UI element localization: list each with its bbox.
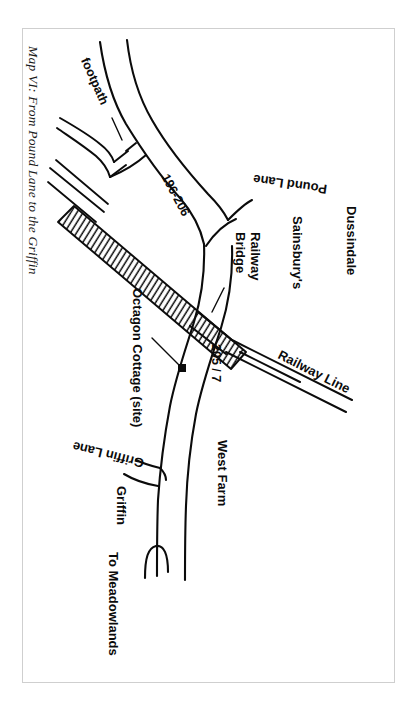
label-railway-bridge-line1: Railway — [247, 232, 262, 280]
label-house-numbers-205-7: 205 / 7 — [209, 344, 222, 382]
label-west-farm: West Farm — [216, 440, 229, 506]
map-title: Map VI: From Pound Lane to the Griffin — [26, 46, 40, 275]
label-sainsburys: Sainsbury's — [291, 216, 304, 289]
road-pound-lane — [100, 40, 228, 244]
label-octagon-cottage: Octagon Cottage (site) — [131, 288, 144, 427]
label-dussindale: Dussindale — [345, 206, 358, 275]
label-railway-bridge: Railway Bridge — [233, 232, 262, 280]
footpath — [57, 118, 128, 177]
label-to-meadowlands: To Meadowlands — [107, 552, 120, 656]
leader-line-octagon-cottage — [152, 338, 180, 366]
label-railway-bridge-line2: Bridge — [233, 232, 248, 280]
leader-line-railway-bridge — [212, 288, 224, 312]
octagon-cottage-site-marker — [178, 364, 186, 372]
map-page: Map VI: From Pound Lane to the Griffin f… — [0, 0, 417, 701]
leader-line-footpath — [112, 118, 122, 140]
label-griffin: Griffin — [115, 486, 128, 525]
